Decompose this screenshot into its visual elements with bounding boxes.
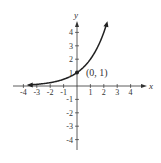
svg-text:3: 3	[69, 42, 73, 51]
curve-arrow-left	[27, 83, 33, 88]
curve-arrow-up	[103, 21, 108, 27]
svg-text:-4: -4	[66, 136, 73, 145]
svg-text:2: 2	[69, 55, 73, 64]
svg-text:1: 1	[88, 88, 92, 97]
svg-text:-2: -2	[47, 88, 54, 97]
svg-text:-2: -2	[66, 109, 73, 118]
svg-text:4: 4	[129, 88, 133, 97]
svg-text:-3: -3	[66, 122, 73, 131]
svg-text:-1: -1	[66, 95, 73, 104]
svg-text:-4: -4	[20, 88, 27, 97]
point-label: (0, 1)	[86, 67, 108, 79]
point-0-1	[75, 71, 79, 75]
exponential-graph: -4-3-2-11234 4321-1-2-3-4 x y (0, 1)	[0, 0, 161, 163]
y-axis-label: y	[73, 10, 78, 20]
svg-text:-3: -3	[33, 88, 40, 97]
svg-text:2: 2	[102, 88, 106, 97]
x-axis-label: x	[148, 81, 153, 91]
y-axis	[75, 21, 79, 150]
svg-text:3: 3	[115, 88, 119, 97]
svg-text:4: 4	[69, 28, 73, 37]
